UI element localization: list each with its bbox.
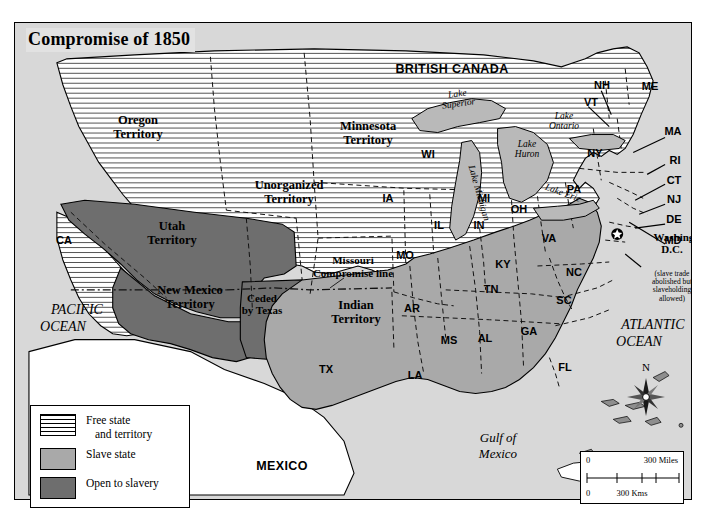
legend-swatch-slave-state	[40, 448, 76, 470]
legend-item-free-state: Free state and territory	[40, 414, 181, 441]
scale-kms-label: 300 Kms	[617, 488, 648, 498]
legend-swatch-open-to-slavery	[40, 477, 76, 499]
scale-miles-row: 0 300 Miles	[586, 455, 678, 470]
compass-rose: N	[626, 363, 666, 415]
scale-miles-label: 300 Miles	[644, 455, 678, 465]
page-title: Compromise of 1850	[26, 28, 195, 52]
legend-item-slave-state: Slave state	[40, 448, 181, 470]
compass-star-icon	[626, 377, 666, 417]
scale-miles-zero: 0	[586, 455, 590, 465]
legend-label-free-state: Free state and territory	[86, 414, 152, 441]
scale-kms-zero: 0	[586, 488, 590, 498]
legend-swatch-free-state	[40, 414, 76, 436]
legend-label-slave-state: Slave state	[86, 448, 136, 462]
washington-dc-marker	[611, 228, 623, 240]
map-legend: Free state and territory Slave state Ope…	[30, 405, 190, 508]
legend-label-open-to-slavery: Open to slavery	[86, 477, 159, 491]
scale-ticks	[586, 472, 680, 484]
legend-item-open-to-slavery: Open to slavery	[40, 477, 181, 499]
map-scale-bar: 0 300 Miles 0 300 Kms	[580, 451, 684, 504]
compass-north-label: N	[626, 361, 666, 373]
scale-kms-row: 0 300 Kms	[586, 488, 678, 500]
historical-map: BRITISH CANADA MEXICO PACIFICOCEAN ATLAN…	[0, 0, 706, 520]
